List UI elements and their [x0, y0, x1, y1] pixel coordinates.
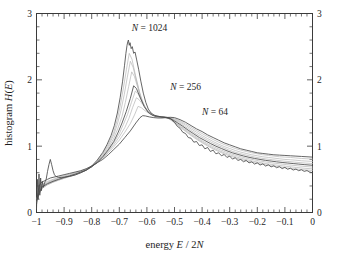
- annotation-N64: N = 64: [201, 107, 228, 117]
- x-axis-title: energy E / 2N: [146, 239, 205, 250]
- y-tick-label-right: 0: [317, 208, 322, 218]
- annotation-N1024: N = 1024: [131, 23, 168, 33]
- curve-N724: [37, 53, 313, 198]
- plot-frame: [37, 14, 313, 213]
- y-tick-label: 0: [27, 208, 32, 218]
- y-tick-label-right: 1: [317, 142, 322, 152]
- x-tick-label: −0.3: [221, 217, 238, 227]
- x-tick-label: −0.5: [166, 217, 183, 227]
- figure-container: −1−0.9−0.8−0.7−0.6−0.5−0.4−0.3−0.2−0.100…: [0, 0, 347, 254]
- annotation-N256: N = 256: [169, 82, 201, 92]
- x-tick-label: −0.4: [193, 217, 210, 227]
- y-tick-label: 3: [27, 9, 32, 19]
- y-tick-label: 1: [27, 142, 32, 152]
- y-tick-label-right: 2: [317, 75, 322, 85]
- x-tick-label: −0.6: [138, 217, 155, 227]
- curve-N1024: [37, 40, 313, 209]
- curve-N256: [37, 86, 313, 201]
- curve-N181: [37, 91, 313, 201]
- y-tick-label-right: 3: [317, 9, 322, 19]
- histogram-chart: −1−0.9−0.8−0.7−0.6−0.5−0.4−0.3−0.2−0.100…: [0, 0, 347, 254]
- curve-N64: [37, 116, 313, 205]
- x-tick-label: 0: [310, 217, 315, 227]
- x-tick-label: −1: [31, 217, 41, 227]
- y-axis-title: histogram H(E): [3, 80, 15, 146]
- y-tick-label: 2: [27, 75, 32, 85]
- x-tick-label: −0.7: [111, 217, 128, 227]
- curves-group: [37, 40, 313, 209]
- x-tick-label: −0.8: [83, 217, 100, 227]
- x-tick-label: −0.1: [276, 217, 293, 227]
- curve-N128: [37, 98, 313, 202]
- x-tick-label: −0.9: [55, 217, 72, 227]
- x-tick-label: −0.2: [249, 217, 266, 227]
